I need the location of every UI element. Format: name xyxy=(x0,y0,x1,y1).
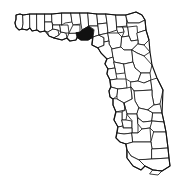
county-jackson xyxy=(52,13,62,25)
county-hamilton xyxy=(97,14,107,24)
county-liberty xyxy=(60,25,69,33)
county-okaloosa xyxy=(30,14,37,31)
county-baker xyxy=(116,15,127,27)
county-palm-beach xyxy=(151,132,168,149)
florida-county-locator-map xyxy=(0,0,193,183)
county-desoto xyxy=(122,120,132,128)
county-gadsden xyxy=(62,13,72,25)
county-santa-rosa xyxy=(22,14,30,30)
county-broward xyxy=(152,148,169,159)
county-leon xyxy=(71,13,81,25)
county-madison xyxy=(88,13,98,26)
county-columbia xyxy=(106,14,117,33)
county-map-svg xyxy=(0,0,193,183)
county-holmes xyxy=(45,14,52,22)
county-wakulla xyxy=(69,25,80,33)
county-walton xyxy=(37,14,45,32)
